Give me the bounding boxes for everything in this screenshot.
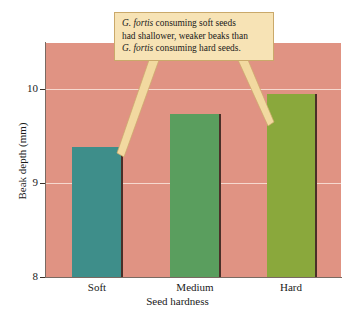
callout-line-2: had shallower, weaker beaks than [122, 30, 267, 43]
bar-chart-figure: 10 9 8 Beak depth (mm) Soft Medium Hard … [0, 0, 355, 316]
callout-species-1: G. fortis [122, 18, 153, 28]
callout-line-3: G. fortis consuming hard seeds. [122, 42, 267, 55]
callout-pointer-right [238, 60, 274, 126]
callout-line-1-rest: consuming soft seeds [153, 18, 236, 28]
callout-textbox: G. fortis consuming soft seeds had shall… [114, 12, 274, 61]
callout-line-1: G. fortis consuming soft seeds [122, 17, 267, 30]
callout-pointer-left [117, 60, 159, 157]
callout-line-3-rest: consuming hard seeds. [153, 43, 240, 53]
callout-species-2: G. fortis [122, 43, 153, 53]
